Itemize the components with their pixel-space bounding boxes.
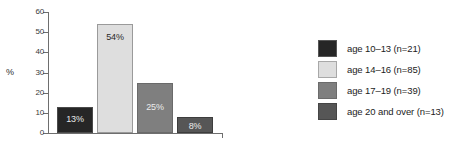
y-tick-label: 30 [18, 69, 44, 77]
bar: 8% [177, 117, 213, 133]
legend-item: age 14–16 (n=85) [318, 59, 457, 80]
legend-swatch [318, 40, 337, 57]
bar-value-label: 13% [58, 115, 92, 124]
x-axis-line [48, 133, 223, 134]
plot-area: 13%54%25%8% [48, 12, 222, 133]
legend-swatch [318, 103, 337, 120]
bar-value-label: 8% [178, 122, 212, 131]
legend-label: age 17–19 (n=39) [347, 85, 421, 96]
y-tick-label: 60 [18, 8, 44, 16]
x-axis-end-tick [222, 133, 223, 138]
legend-label: age 14–16 (n=85) [347, 64, 421, 75]
legend-item: age 17–19 (n=39) [318, 80, 457, 101]
bar: 54% [97, 24, 133, 133]
y-tick-label: 0 [18, 129, 44, 137]
y-tick-label: 10 [18, 109, 44, 117]
legend: age 10–13 (n=21)age 14–16 (n=85)age 17–1… [318, 38, 457, 122]
legend-label: age 20 and over (n=13) [347, 106, 444, 117]
y-tick-label: 20 [18, 89, 44, 97]
bar-value-label: 54% [98, 33, 132, 42]
bar: 25% [137, 83, 173, 133]
legend-swatch [318, 61, 337, 78]
bar: 13% [57, 107, 93, 133]
legend-item: age 20 and over (n=13) [318, 101, 457, 122]
bar-chart: % 6050403020100 13%54%25%8% [0, 0, 240, 148]
bar-value-label: 25% [138, 103, 172, 112]
legend-item: age 10–13 (n=21) [318, 38, 457, 59]
chart-figure: % 6050403020100 13%54%25%8% age 10–13 (n… [0, 0, 457, 148]
legend-label: age 10–13 (n=21) [347, 43, 421, 54]
legend-swatch [318, 82, 337, 99]
y-axis-ticks: 6050403020100 [0, 0, 44, 148]
y-tick-label: 50 [18, 28, 44, 36]
y-tick-label: 40 [18, 48, 44, 56]
